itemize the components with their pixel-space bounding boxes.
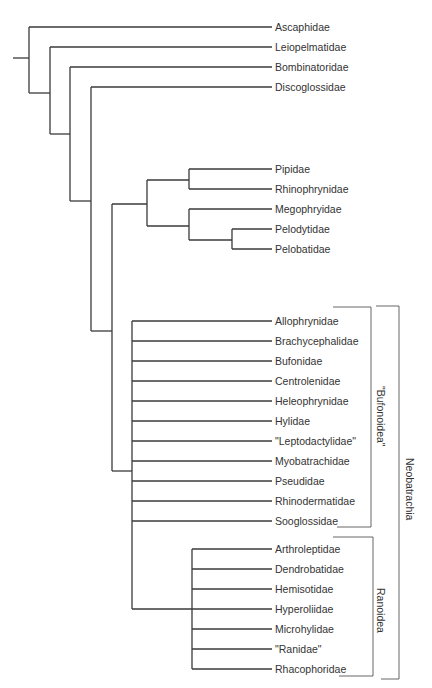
- tree-branches: [13, 27, 272, 669]
- phylogenetic-tree: [0, 0, 432, 688]
- tip-label-allophrynidae: Allophrynidae: [275, 315, 339, 327]
- clade-label-neobatrachia: Neobatrachia: [404, 458, 416, 520]
- tip-label-ranidae: "Ranidae": [275, 643, 322, 655]
- tip-label-hemisotidae: Hemisotidae: [275, 583, 333, 595]
- tip-label-heleophrynidae: Heleophrynidae: [275, 395, 349, 407]
- tip-label-ascaphidae: Ascaphidae: [275, 21, 330, 33]
- clade-label-ranoidea: Ranoidea: [375, 588, 387, 633]
- tip-label-leiopelmatidae: Leiopelmatidae: [275, 41, 346, 53]
- tip-label-pipidae: Pipidae: [275, 163, 310, 175]
- clade-brackets: [333, 306, 399, 679]
- tip-label-sooglossidae: Sooglossidae: [275, 515, 338, 527]
- bracket-ranoidea: [333, 537, 373, 676]
- tip-label-bombinatoridae: Bombinatoridae: [275, 61, 349, 73]
- tip-label-pelobatidae: Pelobatidae: [275, 243, 330, 255]
- tip-label-hylidae: Hylidae: [275, 415, 310, 427]
- tip-label-brachycephalidae: Brachycephalidae: [275, 335, 358, 347]
- tip-label-centrolenidae: Centrolenidae: [275, 375, 340, 387]
- clade-label-bufonoidea: "Bufonoidea": [375, 386, 387, 447]
- tip-label-hyperoliidae: Hyperoliidae: [275, 603, 333, 615]
- tip-label-megophryidae: Megophryidae: [275, 203, 342, 215]
- tip-label-rhinophrynidae: Rhinophrynidae: [275, 183, 349, 195]
- tip-label-bufonidae: Bufonidae: [275, 355, 322, 367]
- tip-label-leptodactylidae: "Leptodactylidae": [275, 435, 356, 447]
- tip-label-pseudidae: Pseudidae: [275, 475, 325, 487]
- tip-label-dendrobatidae: Dendrobatidae: [275, 563, 344, 575]
- tip-label-microhylidae: Microhylidae: [275, 623, 334, 635]
- tip-label-myobatrachidae: Myobatrachidae: [275, 455, 350, 467]
- tip-label-rhinodermatidae: Rhinodermatidae: [275, 495, 355, 507]
- tip-label-pelodytidae: Pelodytidae: [275, 223, 330, 235]
- tip-label-discoglossidae: Discoglossidae: [275, 81, 346, 93]
- tip-label-arthroleptidae: Arthroleptidae: [275, 543, 340, 555]
- tip-label-rhacophoridae: Rhacophoridae: [275, 663, 346, 675]
